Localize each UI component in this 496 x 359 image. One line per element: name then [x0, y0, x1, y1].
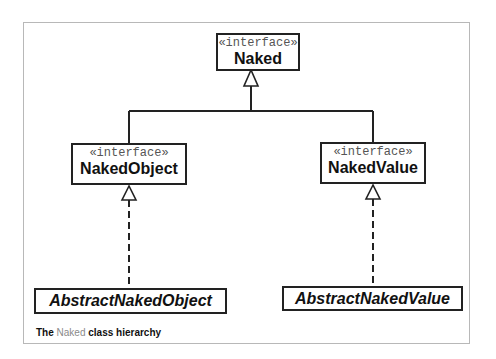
generalization-arrowhead-icon	[244, 70, 258, 86]
caption-prefix: The	[36, 327, 54, 338]
class-box-abstract-naked-object: AbstractNakedObject	[34, 288, 227, 314]
caption-suffix: class hierarchy	[88, 327, 161, 338]
class-name: NakedValue	[322, 159, 424, 177]
class-name: AbstractNakedValue	[284, 288, 461, 310]
class-box-abstract-naked-value: AbstractNakedValue	[282, 286, 463, 311]
class-box-naked-object: «interface» NakedObject	[71, 143, 187, 185]
stereotype-label: «interface»	[73, 147, 185, 160]
class-box-naked: «interface» Naked	[216, 33, 300, 71]
realization-arrowhead-icon	[366, 185, 380, 199]
stereotype-label: «interface»	[218, 37, 298, 50]
caption-highlight: Naked	[57, 327, 86, 338]
class-name: NakedObject	[73, 160, 185, 178]
class-name: AbstractNakedObject	[36, 290, 225, 312]
class-name: Naked	[218, 50, 298, 68]
stereotype-label: «interface»	[322, 146, 424, 159]
figure-caption: The Naked class hierarchy	[36, 327, 161, 338]
realization-arrowhead-icon	[122, 186, 136, 200]
class-box-naked-value: «interface» NakedValue	[320, 142, 426, 184]
